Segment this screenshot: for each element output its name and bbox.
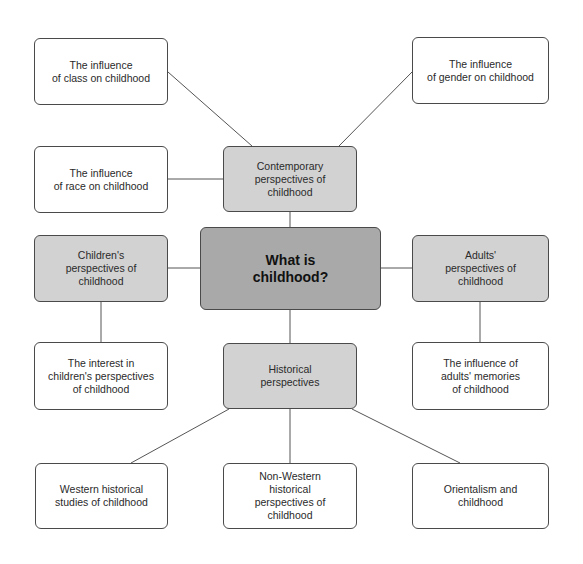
node-influence-of-gender: The influence of gender on childhood — [412, 37, 549, 104]
edge-historical-orientalism — [352, 409, 460, 463]
node-orientalism-and-childhood: Orientalism and childhood — [412, 463, 549, 529]
node-historical-perspectives: Historical perspectives — [223, 343, 357, 409]
node-non-western-historical-perspectives: Non-Western historical perspectives of c… — [223, 463, 357, 529]
node-interest-in-childrens-perspectives: The interest in children's perspectives … — [34, 342, 168, 410]
node-influence-of-class: The influence of class on childhood — [34, 38, 168, 105]
node-western-historical-studies: Western historical studies of childhood — [35, 463, 168, 529]
node-childrens-perspectives: Children's perspectives of childhood — [34, 235, 168, 302]
node-influence-of-race: The influence of race on childhood — [34, 146, 168, 213]
edge-contemporary-class — [168, 72, 252, 146]
edge-contemporary-gender — [339, 72, 412, 146]
node-influence-of-adults-memories: The influence of adults' memories of chi… — [412, 342, 549, 410]
edge-historical-western — [131, 409, 229, 463]
node-adults-perspectives: Adults' perspectives of childhood — [412, 235, 549, 302]
node-contemporary-perspectives: Contemporary perspectives of childhood — [223, 146, 357, 212]
node-what-is-childhood: What is childhood? — [200, 227, 381, 310]
